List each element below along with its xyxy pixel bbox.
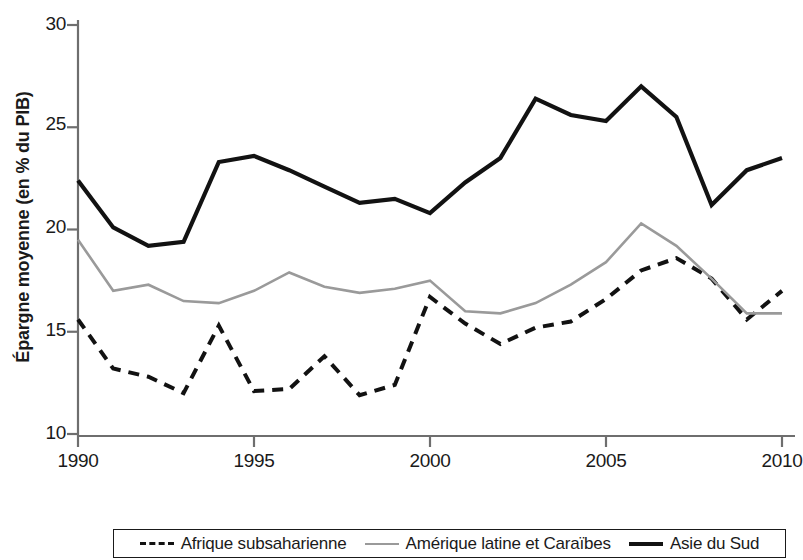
dashed-line-icon <box>140 542 174 545</box>
legend-label: Amérique latine et Caraïbes <box>406 534 611 554</box>
legend-label: Afrique subsaharienne <box>181 534 347 554</box>
chart-figure: Épargne moyenne (en % du PIB) 30 25 20 1… <box>0 0 803 560</box>
data-series-layer <box>78 86 782 395</box>
solid-gray-line-icon <box>365 543 399 545</box>
series-line-afrique-subsaharienne <box>78 258 782 395</box>
chart-legend: Afrique subsaharienne Amérique latine et… <box>113 529 786 558</box>
legend-entry-amerique-latine-et-caraibes: Amérique latine et Caraïbes <box>356 534 620 554</box>
series-line-asie-du-sud <box>78 86 782 246</box>
solid-black-line-icon <box>629 542 663 546</box>
legend-entry-asie-du-sud: Asie du Sud <box>620 534 768 554</box>
axis-lines <box>78 20 795 436</box>
y-tick-marks <box>67 25 78 434</box>
legend-entry-afrique-subsaharienne: Afrique subsaharienne <box>131 534 356 554</box>
legend-label: Asie du Sud <box>670 534 759 554</box>
x-tick-marks <box>78 436 782 447</box>
plot-area <box>0 0 803 470</box>
